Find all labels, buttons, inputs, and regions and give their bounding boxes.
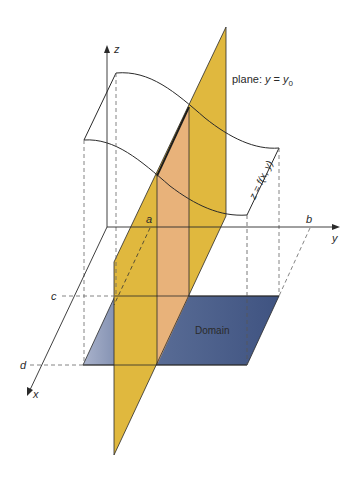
x-axis-label: x — [32, 388, 39, 400]
plane-label: plane: y = y0 — [232, 73, 294, 88]
y-axis-label: y — [331, 232, 339, 244]
dash-b — [279, 228, 310, 296]
surface-label: z = f(x, y) — [246, 159, 274, 202]
label-a: a — [146, 213, 152, 225]
surface-left-edge — [84, 73, 116, 140]
label-d: d — [20, 359, 27, 371]
z-axis-arrow-icon — [104, 45, 110, 53]
y-axis-arrow-icon — [332, 224, 340, 230]
label-c: c — [51, 290, 57, 302]
x-axis — [29, 227, 107, 392]
diagram: z y x a b c d plane: y = y0 z = f(x, y) … — [0, 0, 360, 479]
domain-label: Domain — [195, 325, 229, 336]
label-b: b — [306, 213, 312, 225]
z-axis-label: z — [113, 43, 120, 55]
